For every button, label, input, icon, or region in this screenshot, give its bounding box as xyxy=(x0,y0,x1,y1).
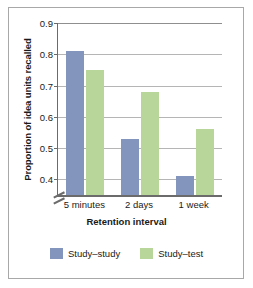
legend-label: Study–test xyxy=(158,248,203,259)
legend-swatch xyxy=(50,248,63,259)
y-tick-mark xyxy=(54,148,58,149)
x-tick-label: 2 days xyxy=(125,199,153,210)
x-tick-label: 1 week xyxy=(179,199,209,210)
y-tick-mark xyxy=(54,179,58,180)
bar xyxy=(86,70,104,195)
legend-item: Study–test xyxy=(140,248,203,259)
legend: Study–studyStudy–test xyxy=(0,248,253,259)
bar xyxy=(176,176,194,195)
y-tick-label: 0.7 xyxy=(40,80,53,91)
y-tick-label: 0.4 xyxy=(40,174,53,185)
y-tick-label: 0.9 xyxy=(40,18,53,29)
bar xyxy=(66,51,84,195)
bar xyxy=(196,129,214,195)
legend-item: Study–study xyxy=(50,248,120,259)
y-tick-mark xyxy=(54,117,58,118)
x-tick-label: 5 minutes xyxy=(64,199,105,210)
bar-group xyxy=(113,23,168,195)
bar-group xyxy=(58,23,113,195)
legend-label: Study–study xyxy=(68,248,120,259)
bar-group xyxy=(167,23,222,195)
y-tick-label: 0.6 xyxy=(40,111,53,122)
y-tick-mark xyxy=(54,23,58,24)
y-tick-mark xyxy=(54,86,58,87)
plot-inner xyxy=(58,23,222,195)
y-axis-title: Proportion of idea units recalled xyxy=(22,20,33,200)
legend-swatch xyxy=(140,248,153,259)
plot-area: 0.40.50.60.70.80.9 xyxy=(57,23,222,195)
y-tick-mark xyxy=(54,54,58,55)
y-tick-label: 0.8 xyxy=(40,49,53,60)
figure: Proportion of idea units recalled 0.40.5… xyxy=(0,0,253,288)
bar xyxy=(141,92,159,195)
x-axis-line xyxy=(57,195,222,197)
y-tick-label: 0.5 xyxy=(40,143,53,154)
bar xyxy=(121,139,139,195)
x-axis-title: Retention interval xyxy=(0,216,253,227)
